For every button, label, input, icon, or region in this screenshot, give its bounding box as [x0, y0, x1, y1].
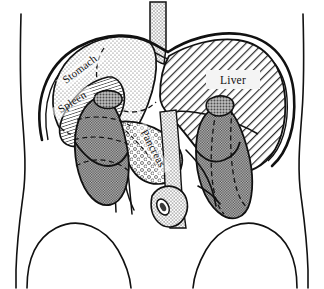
vessel-cross-section [151, 186, 187, 227]
anatomy-diagram-canvas: Liver Stomach Spleen Pancreas [0, 0, 324, 289]
adrenal-left [94, 91, 122, 109]
anatomy-figure: Liver Stomach Spleen Pancreas [0, 0, 324, 289]
adrenal-right-body [206, 96, 234, 116]
adrenal-left-body [94, 91, 122, 109]
adrenal-right [206, 96, 234, 116]
liver-label: Liver [220, 74, 246, 86]
liver-label-group: Liver [206, 70, 260, 89]
